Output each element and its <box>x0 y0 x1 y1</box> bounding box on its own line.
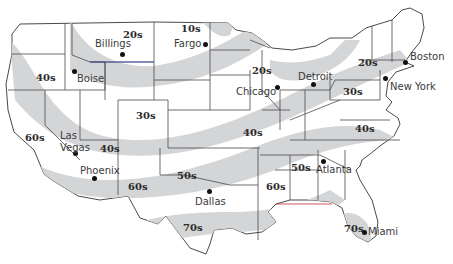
city-label-boston: Boston <box>410 52 445 62</box>
city-marker-dallas <box>207 189 212 194</box>
city-marker-billings <box>120 52 125 57</box>
city-label-boise: Boise <box>77 74 104 84</box>
zone-label: 20s <box>358 58 378 68</box>
city-marker-fargo <box>203 42 208 47</box>
zone-label: 50s <box>291 163 311 173</box>
city-marker-boston <box>403 60 408 65</box>
city-label-phoenix: Phoenix <box>80 166 120 176</box>
city-label-chicago: Chicago <box>236 87 276 97</box>
city-label-detroit: Detroit <box>298 72 332 82</box>
city-label-las-vegas: Las Vegas <box>60 130 90 154</box>
zone-label: 30s <box>343 87 363 97</box>
zone-label: 70s <box>183 223 203 233</box>
city-label-miami: Miami <box>368 227 398 237</box>
zone-label: 60s <box>25 133 45 143</box>
city-label-dallas: Dallas <box>195 197 226 207</box>
zone-label: 40s <box>36 73 56 83</box>
city-marker-phoenix <box>92 176 97 181</box>
us-temperature-map: 10s 20s 20s 20s 30s 30s 40s 40s 40s 40s … <box>0 0 453 264</box>
city-marker-miami <box>362 230 367 235</box>
city-label-fargo: Fargo <box>174 39 201 49</box>
zone-label: 40s <box>100 144 120 154</box>
zone-label: 40s <box>243 128 263 138</box>
city-label-billings: Billings <box>95 39 131 49</box>
zone-label: 60s <box>128 182 148 192</box>
zone-label: 50s <box>177 171 197 181</box>
city-marker-new-york <box>383 76 388 81</box>
zone-label: 30s <box>136 111 156 121</box>
zone-label: 60s <box>266 182 286 192</box>
city-marker-detroit <box>311 82 316 87</box>
zone-label: 70s <box>344 224 364 234</box>
city-label-new-york: New York <box>390 82 436 92</box>
zone-label: 10s <box>181 24 201 34</box>
zone-label: 20s <box>252 66 272 76</box>
zone-label: 40s <box>355 124 375 134</box>
city-label-atlanta: Atlanta <box>316 165 352 175</box>
